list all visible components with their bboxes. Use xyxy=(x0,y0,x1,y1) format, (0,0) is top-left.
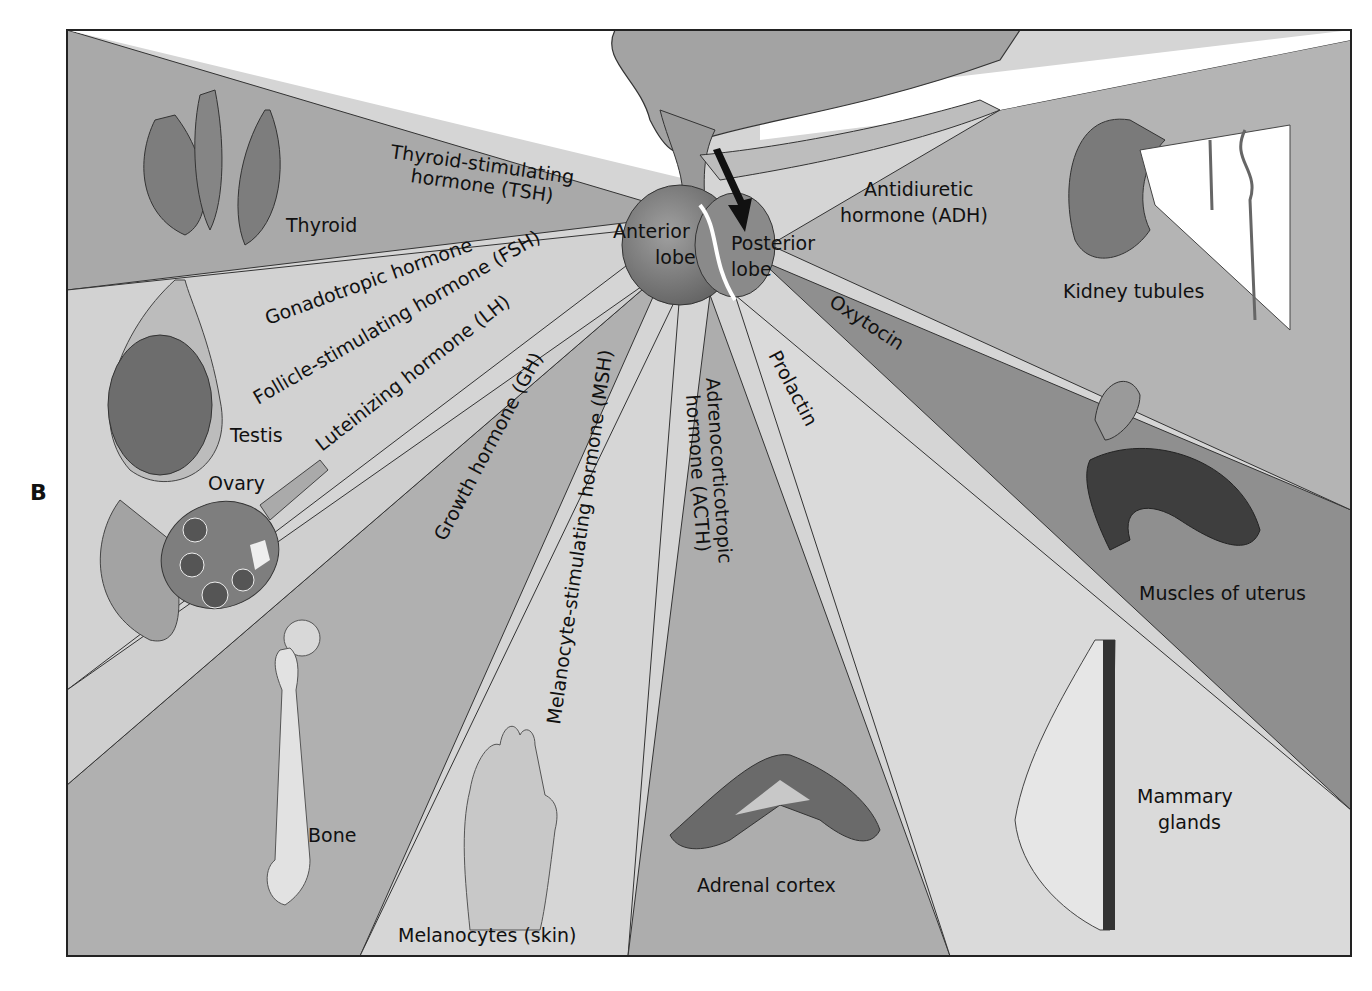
posterior-lobe-label-1: Posterior xyxy=(731,232,815,254)
mammary-label-1: Mammary xyxy=(1137,785,1233,807)
uterus-label: Muscles of uterus xyxy=(1139,582,1306,604)
adh-label-1: Antidiuretic xyxy=(864,178,973,200)
anterior-lobe-label-2: lobe xyxy=(655,246,696,268)
adh-label-2: hormone (ADH) xyxy=(840,204,988,226)
hormone-diagram: Anterior lobe Posterior lobe Thyroid-sti… xyxy=(0,0,1372,991)
adrenal-cortex-label: Adrenal cortex xyxy=(697,874,836,896)
melanocytes-label: Melanocytes (skin) xyxy=(398,924,577,946)
kidney-tubules-label: Kidney tubules xyxy=(1063,280,1204,302)
testis-label: Testis xyxy=(229,424,283,446)
mammary-label-2: glands xyxy=(1158,811,1221,833)
bone-label: Bone xyxy=(308,824,356,846)
thyroid-label: Thyroid xyxy=(285,214,357,236)
anterior-lobe-label-1: Anterior xyxy=(613,220,690,242)
posterior-lobe-label-2: lobe xyxy=(731,258,772,280)
ovary-label: Ovary xyxy=(208,472,265,494)
